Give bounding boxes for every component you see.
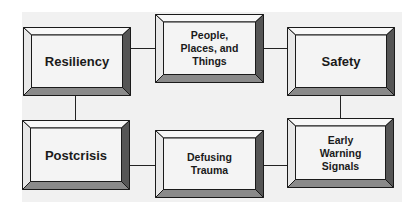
edge-defusing-early-warning bbox=[264, 165, 287, 166]
node-label: Defusing Trauma bbox=[165, 138, 254, 190]
node-label: People, Places, and Things bbox=[165, 22, 254, 75]
node-postcrisis: Postcrisis bbox=[22, 120, 130, 190]
node-people-places-things: People, Places, and Things bbox=[155, 14, 264, 83]
node-resiliency: Resiliency bbox=[23, 27, 131, 96]
node-defusing-trauma: Defusing Trauma bbox=[155, 130, 264, 198]
node-label: Safety bbox=[297, 35, 385, 88]
node-safety: Safety bbox=[287, 27, 395, 96]
node-label: Resiliency bbox=[33, 35, 121, 88]
edge-postcrisis-defusing bbox=[130, 165, 155, 166]
edge-resiliency-people bbox=[131, 48, 155, 49]
diagram-canvas: Resiliency People, Places, and Things Sa… bbox=[0, 0, 414, 210]
edge-people-safety bbox=[264, 48, 287, 49]
edge-resiliency-postcrisis bbox=[75, 96, 76, 120]
edge-safety-early-warning bbox=[340, 96, 341, 118]
node-label: Early Warning Signals bbox=[297, 126, 384, 180]
node-early-warning-signals: Early Warning Signals bbox=[287, 118, 394, 188]
node-label: Postcrisis bbox=[32, 128, 120, 182]
